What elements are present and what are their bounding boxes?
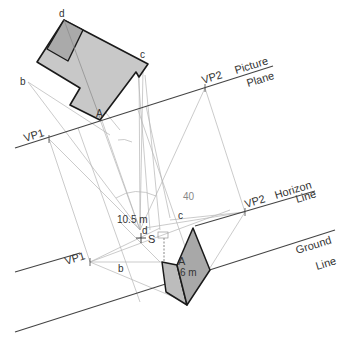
plan-point-b: b	[20, 76, 26, 87]
picture-plane-label-2: Plane	[245, 69, 275, 89]
persp-point-c: c	[178, 210, 183, 221]
height-10-5m-label: 10.5 m	[117, 214, 148, 225]
vp2-hl-label: VP2	[243, 192, 266, 210]
wall-height-6m-label: 6 m	[180, 267, 197, 278]
vp1-hl-label: VP1	[63, 249, 86, 267]
perspective-diagram: d c b A VP2 Picture Plane VP1 S 40 VP2 H…	[0, 0, 355, 356]
ground-line-label-2: Line	[314, 254, 337, 272]
angle-40-label: 40	[183, 191, 195, 202]
diagram-canvas: d c b A VP2 Picture Plane VP1 S 40 VP2 H…	[0, 0, 355, 356]
vp1-pp-label: VP1	[22, 126, 45, 144]
picture-plane	[15, 66, 273, 148]
persp-point-A: A	[178, 255, 186, 267]
station-point-label: S	[148, 233, 155, 245]
persp-point-d: d	[142, 225, 148, 236]
building-plan	[37, 20, 148, 120]
persp-point-b: b	[118, 263, 124, 274]
plan-point-A: A	[96, 108, 103, 119]
horizon-line	[15, 191, 315, 272]
plan-point-d: d	[59, 8, 65, 19]
plan-point-c: c	[140, 49, 145, 60]
